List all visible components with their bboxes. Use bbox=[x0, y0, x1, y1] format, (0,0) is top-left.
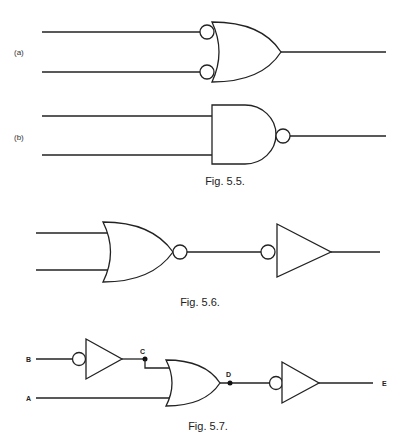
or-gate bbox=[212, 22, 281, 82]
signal-label-d: D bbox=[226, 371, 231, 378]
logic-diagrams: (a) (b) Fig. 5.5. Fig. 5.6. B C bbox=[0, 0, 402, 443]
figure-caption: Fig. 5.7. bbox=[188, 420, 228, 432]
part-label-b: (b) bbox=[14, 133, 24, 142]
node-d bbox=[228, 381, 233, 386]
signal-label-e: E bbox=[382, 380, 387, 387]
buffer-triangle bbox=[86, 339, 122, 379]
fig-5-6 bbox=[36, 222, 380, 282]
inversion-bubble bbox=[200, 25, 214, 39]
inversion-bubble bbox=[270, 377, 283, 390]
inversion-bubble bbox=[276, 129, 290, 143]
buffer-triangle bbox=[277, 224, 331, 277]
signal-label-b: B bbox=[26, 356, 31, 363]
figure-caption: Fig. 5.5. bbox=[205, 175, 245, 187]
fig-5-5a: (a) bbox=[14, 22, 386, 82]
fig-5-7: B C A D E bbox=[26, 339, 387, 406]
part-label-a: (a) bbox=[14, 48, 24, 57]
inversion-bubble bbox=[73, 353, 86, 366]
buffer-triangle bbox=[282, 362, 319, 403]
inversion-bubble bbox=[261, 245, 275, 259]
figure-caption: Fig. 5.6. bbox=[180, 296, 220, 308]
signal-label-c: C bbox=[140, 348, 145, 355]
or-gate bbox=[166, 360, 220, 406]
inversion-bubble bbox=[200, 65, 214, 79]
fig-5-5b: (b) bbox=[14, 105, 386, 164]
inversion-bubble bbox=[173, 245, 187, 259]
signal-label-a: A bbox=[26, 395, 31, 402]
nor-gate bbox=[103, 222, 173, 282]
nand-gate bbox=[212, 105, 276, 164]
